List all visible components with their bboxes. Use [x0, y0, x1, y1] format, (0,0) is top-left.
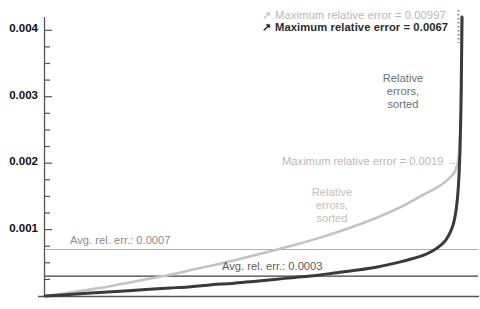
dark-curve-callout-line1: Relative [372, 72, 434, 85]
legend-row-light: ↗ Maximum relative error = 0.00997 [262, 9, 448, 21]
avg-rel-err-dark-label: Avg. rel. err.: 0.0003 [222, 260, 323, 273]
y-tick-label: 0.002 [0, 155, 38, 167]
legend-label-dark: Maximum relative error = 0.0067 [275, 21, 448, 33]
y-tick-label: 0.001 [0, 222, 38, 234]
legend-row-dark: ↗ Maximum relative error = 0.0067 [262, 21, 448, 33]
legend: ↗ Maximum relative error = 0.00997 ↗ Max… [262, 9, 448, 33]
dark-curve-callout-line3: sorted [372, 98, 434, 111]
legend-label-light: Maximum relative error = 0.00997 [275, 9, 446, 21]
arrow-up-right-icon: ↗ [262, 22, 271, 33]
relative-error-chart: 0.0040.0030.0020.001 ↗ Maximum relative … [0, 0, 480, 309]
max-relative-error-inline-annotation: Maximum relative error = 0.0019 → [282, 155, 458, 168]
dark-curve-callout: Relative errors, sorted [372, 72, 434, 112]
light-curve-callout-line3: sorted [296, 212, 368, 225]
light-curve-callout-line1: Relative [296, 186, 368, 199]
light-curve-callout: Relative errors, sorted [296, 186, 368, 226]
y-tick-marks [45, 30, 52, 279]
arrow-up-right-icon: ↗ [262, 10, 271, 21]
y-tick-label: 0.003 [0, 89, 38, 101]
y-tick-label: 0.004 [0, 22, 38, 34]
light-curve-callout-line2: errors, [296, 199, 368, 212]
avg-rel-err-light-label: Avg. rel. err.: 0.0007 [70, 234, 171, 247]
dark-curve-callout-line2: errors, [372, 85, 434, 98]
